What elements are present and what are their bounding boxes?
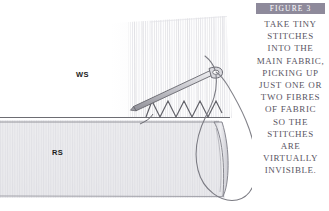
caption-line: TWO FIBRES — [255, 91, 326, 103]
lower-fabric-rs — [0, 118, 232, 200]
caption-line: OF FABRIC — [255, 103, 326, 115]
caption-line: ARE — [255, 140, 326, 152]
fabric-stitch-diagram — [0, 0, 252, 211]
caption-line: INVISIBLE. — [255, 164, 326, 176]
lower-fabric-label: RS — [52, 148, 63, 157]
caption-line: STITCHES — [255, 128, 326, 140]
figure-illustration-page: WS RS FIGURE 3 TAKE TINY STITCHES INTO T… — [0, 0, 329, 211]
caption-line: PICKING UP — [255, 67, 326, 79]
caption-line: JUST ONE OR — [255, 79, 326, 91]
upper-fabric-label: WS — [76, 70, 89, 79]
caption-line: MAIN FABRIC, — [255, 55, 326, 67]
caption-line: INTO THE — [255, 42, 326, 54]
caption-panel: FIGURE 3 TAKE TINY STITCHES INTO THE MAI… — [252, 0, 329, 211]
figure-number-bar: FIGURE 3 — [256, 3, 325, 14]
caption-line: VIRTUALLY — [255, 152, 326, 164]
figure-number-label: FIGURE 3 — [270, 3, 312, 14]
caption-line: SO THE — [255, 116, 326, 128]
caption-text: TAKE TINY STITCHES INTO THE MAIN FABRIC,… — [252, 18, 329, 177]
caption-line: STITCHES — [255, 30, 326, 42]
caption-line: TAKE TINY — [255, 18, 326, 30]
illustration-panel: WS RS — [0, 0, 252, 211]
